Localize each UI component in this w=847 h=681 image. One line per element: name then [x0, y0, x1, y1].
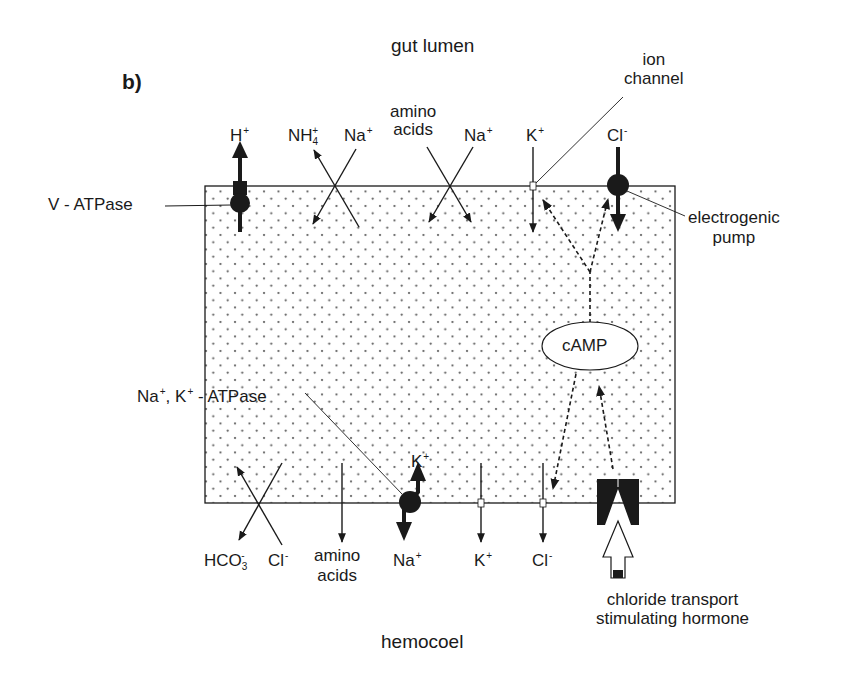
hormone-arrow [603, 521, 633, 578]
h-ion-label: H+ [230, 121, 249, 145]
cl-basal-label-1: Cl- [268, 546, 288, 570]
panel-label: b) [122, 72, 142, 91]
cl-ion-apical-label: Cl- [607, 121, 627, 145]
na-ion-label-2: Na+ [464, 121, 493, 145]
gut-lumen-label: gut lumen [391, 36, 474, 55]
ion-channel-label: ionchannel [624, 50, 684, 88]
k-ion-apical-label: K+ [526, 121, 544, 145]
na-k-atpase-label: Na+, K+ - ATPase [137, 382, 267, 406]
amino-acids-apical-label: aminoacids [390, 103, 436, 139]
nh4-ion-label: NH4+ [288, 121, 318, 151]
cl-basal-label-2: Cl- [532, 546, 552, 570]
hormone-label: chloride transportstimulating hormone [596, 590, 749, 628]
hco3-label: HCO3- [204, 546, 245, 576]
camp-label: cAMP [562, 336, 607, 355]
amino-acids-basal-label: aminoacids [314, 546, 360, 586]
k-basal-label: K+ [474, 546, 492, 570]
hemocoel-label: hemocoel [381, 632, 463, 651]
na-basal-label: Na+ [393, 546, 422, 570]
k-pump-label: K+ [411, 447, 429, 471]
na-ion-label-1: Na+ [344, 121, 373, 145]
v-atpase-label: V - ATPase [48, 195, 133, 214]
electrogenic-pump-label: electrogenicpump [688, 208, 780, 248]
